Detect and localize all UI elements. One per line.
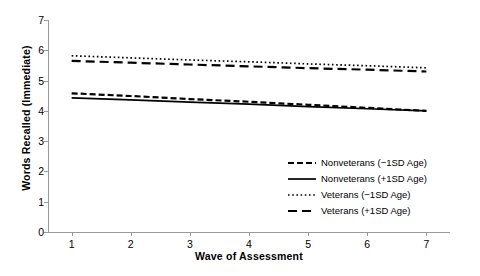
x-tick-mark (190, 232, 191, 236)
x-tick-label: 2 (128, 238, 134, 250)
x-axis-title: Wave of Assessment (48, 250, 450, 262)
legend-label: Veterans (+1SD Age) (321, 206, 411, 216)
x-tick-mark (426, 232, 427, 236)
legend-swatch-icon (288, 158, 316, 168)
x-tick-label: 4 (246, 238, 252, 250)
legend-item: Veterans (+1SD Age) (288, 203, 427, 219)
legend-item: Veterans (−1SD Age) (288, 187, 427, 203)
x-tick-label: 3 (187, 238, 193, 250)
chart-legend: Nonveterans (−1SD Age)Nonveterans (+1SD … (288, 155, 427, 219)
line-chart: Words Recalled (Immediate) 01234567 1234… (0, 0, 480, 276)
legend-item: Nonveterans (−1SD Age) (288, 155, 427, 171)
legend-swatch-icon (288, 206, 316, 216)
y-tick-label: 3 (22, 135, 44, 147)
x-tick-mark (367, 232, 368, 236)
y-tick-label: 1 (22, 196, 44, 208)
series-line (72, 98, 427, 111)
x-tick-label: 1 (69, 238, 75, 250)
y-tick-label: 0 (22, 226, 44, 238)
x-tick-label: 6 (364, 238, 370, 250)
x-tick-mark (131, 232, 132, 236)
legend-label: Nonveterans (+1SD Age) (321, 174, 427, 184)
series-line (72, 56, 427, 68)
y-tick-label: 5 (22, 75, 44, 87)
legend-item: Nonveterans (+1SD Age) (288, 171, 427, 187)
y-tick-label: 7 (22, 14, 44, 26)
legend-label: Nonveterans (−1SD Age) (321, 158, 427, 168)
y-tick-label: 2 (22, 165, 44, 177)
x-tick-mark (249, 232, 250, 236)
x-tick-mark (308, 232, 309, 236)
x-tick-label: 5 (305, 238, 311, 250)
legend-swatch-icon (288, 190, 316, 200)
x-tick-mark (72, 232, 73, 236)
y-tick-label: 4 (22, 105, 44, 117)
x-tick-label: 7 (423, 238, 429, 250)
legend-label: Veterans (−1SD Age) (321, 190, 411, 200)
y-tick-label: 6 (22, 44, 44, 56)
y-tick-mark (44, 232, 48, 233)
legend-swatch-icon (288, 174, 316, 184)
